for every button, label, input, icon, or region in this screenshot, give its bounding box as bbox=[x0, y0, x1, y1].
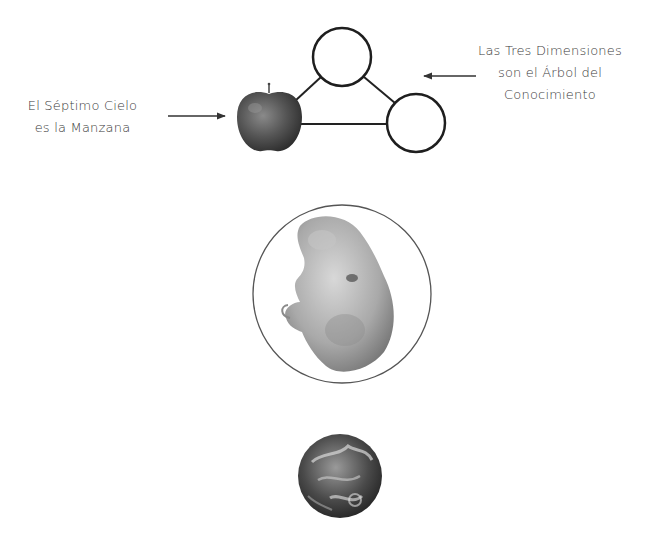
embryo-image bbox=[253, 205, 431, 383]
top-circle bbox=[313, 28, 371, 86]
apple-image bbox=[237, 83, 302, 152]
edge-apple-top bbox=[295, 77, 321, 101]
diagram-canvas bbox=[0, 0, 659, 545]
earth-image bbox=[298, 434, 382, 518]
right-circle bbox=[387, 94, 445, 152]
edge-top-right bbox=[364, 77, 395, 103]
